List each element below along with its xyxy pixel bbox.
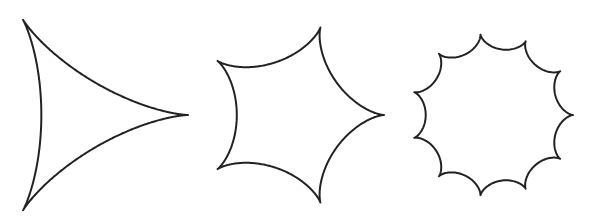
hypocycloid-figure	[0, 0, 592, 220]
background	[0, 0, 592, 220]
